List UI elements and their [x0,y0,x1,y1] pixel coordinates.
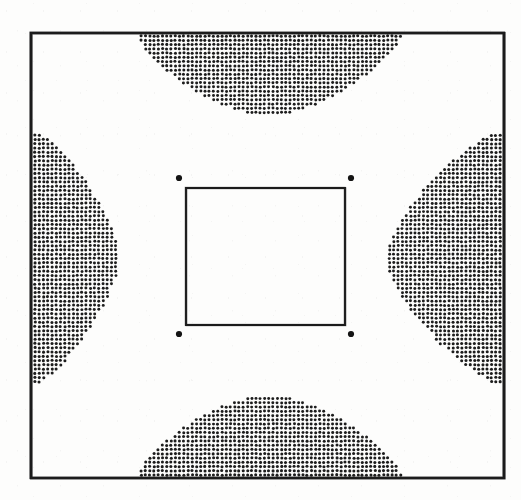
stippled-contour-figure-canvas [0,0,521,500]
figure-root [0,0,521,500]
